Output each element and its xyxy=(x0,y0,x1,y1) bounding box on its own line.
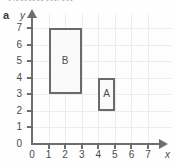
y-tick-label: 4 xyxy=(8,73,22,83)
y-tick-mark xyxy=(27,27,32,29)
x-axis-line xyxy=(32,143,160,145)
y-tick-mark xyxy=(27,44,32,46)
y-tick-mark xyxy=(27,110,32,112)
y-tick-label: 0 xyxy=(8,139,22,149)
y-axis-label: y xyxy=(20,11,25,21)
y-tick-mark xyxy=(27,126,32,128)
figure-canvas: congruent a 01234567 01234567 y x BA xyxy=(0,0,173,164)
y-tick-label: 7 xyxy=(8,23,22,33)
gridline-horizontal xyxy=(24,45,172,46)
x-tick-label: 1 xyxy=(42,150,56,160)
x-tick-label: 6 xyxy=(124,150,138,160)
gridline-vertical xyxy=(131,14,132,144)
gridline-vertical xyxy=(115,14,116,144)
y-tick-label: 1 xyxy=(8,122,22,132)
x-tick-label: 4 xyxy=(91,150,105,160)
coordinate-plane: 01234567 01234567 y x BA xyxy=(0,0,173,164)
x-tick-label: 5 xyxy=(108,150,122,160)
x-tick-label: 0 xyxy=(25,150,39,160)
y-tick-mark xyxy=(27,60,32,62)
gridline-vertical xyxy=(82,14,83,144)
gridline-vertical xyxy=(148,14,149,144)
y-tick-label: 5 xyxy=(8,56,22,66)
x-tick-label: 2 xyxy=(58,150,72,160)
x-tick-label: 7 xyxy=(141,150,155,160)
shape-label-a: A xyxy=(97,89,117,99)
gridline-horizontal xyxy=(24,28,172,29)
gridline-horizontal xyxy=(24,127,172,128)
x-tick-label: 3 xyxy=(75,150,89,160)
x-axis-arrowhead-icon xyxy=(159,139,168,149)
y-tick-label: 3 xyxy=(8,89,22,99)
x-axis-label: x xyxy=(165,150,170,160)
y-tick-mark xyxy=(27,93,32,95)
gridline-horizontal xyxy=(24,111,172,112)
y-tick-label: 2 xyxy=(8,106,22,116)
shape-label-b: B xyxy=(55,56,75,66)
gridline-horizontal xyxy=(24,61,172,62)
y-tick-label: 6 xyxy=(8,40,22,50)
y-axis-arrowhead-icon xyxy=(27,9,37,18)
y-tick-mark xyxy=(27,77,32,79)
